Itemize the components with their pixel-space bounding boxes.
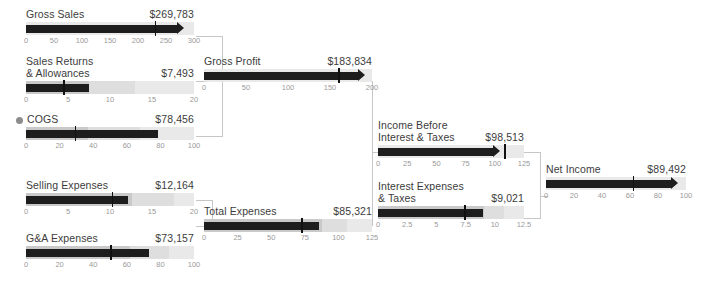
axis: 0 5 10 15 20: [26, 95, 194, 107]
target-marker: [112, 192, 114, 207]
axis-tick: 100: [76, 36, 89, 46]
panel-title-wrap: Total Expenses: [204, 205, 277, 217]
panel-title-line2: & Allowances: [26, 67, 93, 79]
measure-bar: [26, 249, 149, 257]
axis-tick: 0: [24, 207, 28, 217]
panel-title-line1: Income Before: [378, 119, 448, 131]
axis-tick: 0: [24, 141, 28, 151]
panel-title: Net Income: [546, 163, 601, 175]
target-marker: [301, 218, 303, 233]
axis-tick: 100: [188, 141, 201, 151]
panel-value: $78,456: [155, 113, 194, 125]
panel-title: Interest Expenses & Taxes: [378, 180, 464, 204]
bullet-bar[interactable]: [26, 22, 194, 35]
target-marker: [338, 68, 340, 83]
panel-title-wrap: Net Income: [546, 163, 601, 175]
bullet-bar[interactable]: [204, 219, 372, 232]
panel-title: Total Expenses: [204, 205, 277, 217]
axis-tick: 40: [598, 191, 606, 201]
measure-bar: [546, 180, 671, 188]
axis-tick: 100: [282, 83, 295, 93]
bullet-bar[interactable]: [204, 69, 372, 82]
measure-bar: [378, 148, 493, 156]
bullet-bar[interactable]: [378, 145, 524, 158]
target-marker: [633, 176, 635, 191]
bullet-bar[interactable]: [26, 246, 194, 259]
axis-tick: 0: [24, 260, 28, 270]
measure-bar: [26, 84, 89, 92]
axis-tick: 5: [66, 207, 70, 217]
axis-tick: 2.5: [402, 220, 412, 230]
axis-tick: 100: [332, 233, 345, 243]
panel-value: $269,783: [149, 8, 194, 20]
bullet-chart-dashboard: Gross Sales $269,783 0 50 100 150 200 25…: [0, 0, 708, 282]
panel-title: Gross Profit: [204, 55, 261, 67]
axis: 0 5 10 15 20: [26, 207, 194, 219]
target-marker: [504, 144, 506, 159]
axis-tick: 40: [89, 141, 97, 151]
bullet-panel-sales-returns-allowances: Sales Returns & Allowances $7,493 0 5 10…: [26, 55, 194, 107]
axis-tick: 20: [570, 191, 578, 201]
measure-arrow-cap: [671, 177, 678, 189]
panel-header: G&A Expenses $73,157: [26, 232, 194, 244]
panel-title: G&A Expenses: [26, 232, 98, 244]
bullet-bar[interactable]: [26, 127, 194, 140]
axis-tick: 0: [202, 233, 206, 243]
axis-tick: 250: [160, 36, 173, 46]
panel-value: $98,513: [485, 131, 524, 143]
axis: 0 50 100 150 200 250 300: [26, 36, 194, 48]
axis-tick: 60: [626, 191, 634, 201]
axis-tick: 0: [24, 95, 28, 105]
measure-arrow-cap: [493, 145, 500, 157]
axis: 0 25 50 75 100 125: [204, 233, 372, 245]
panel-title-wrap: Selling Expenses: [26, 179, 108, 191]
bullet-bar[interactable]: [546, 177, 686, 190]
panel-header: Gross Profit $183,834: [204, 55, 372, 67]
axis: 0 20 40 60 80 100: [546, 191, 686, 203]
measure-bar: [26, 130, 158, 138]
axis-tick: 15: [148, 207, 156, 217]
axis: 0 2.5 5 7.5 10 12.5: [378, 220, 524, 232]
panel-value: $73,157: [155, 232, 194, 244]
axis-tick: 15: [148, 95, 156, 105]
axis-tick: 12.5: [517, 220, 532, 230]
panel-title: Income Before Interest & Taxes: [378, 119, 455, 143]
axis-tick: 20: [55, 141, 63, 151]
axis-tick: 50: [50, 36, 58, 46]
axis-tick: 150: [324, 83, 337, 93]
axis-tick: 10: [106, 95, 114, 105]
bullet-panel-total-expenses: Total Expenses $85,321 0 25 50 75 100 12…: [204, 205, 372, 245]
bullet-bar[interactable]: [26, 193, 194, 206]
bullet-panel-ga-expenses: G&A Expenses $73,157 0 20 40 60 80 100: [26, 232, 194, 272]
panel-title-wrap: Gross Profit: [204, 55, 261, 67]
axis-tick: 150: [104, 36, 117, 46]
panel-header: Gross Sales $269,783: [26, 8, 194, 20]
bullet-panel-gross-sales: Gross Sales $269,783 0 50 100 150 200 25…: [26, 8, 194, 48]
axis-tick: 60: [123, 141, 131, 151]
axis-tick: 50: [267, 233, 275, 243]
axis-tick: 200: [366, 83, 379, 93]
panel-header: Income Before Interest & Taxes $98,513: [378, 119, 524, 143]
axis-tick: 10: [491, 220, 499, 230]
panel-title-wrap: G&A Expenses: [26, 232, 98, 244]
panel-header: Interest Expenses & Taxes $9,021: [378, 180, 524, 204]
axis-tick: 20: [55, 260, 63, 270]
panel-title: COGS: [27, 113, 58, 125]
axis-tick: 5: [434, 220, 438, 230]
bullet-bar[interactable]: [378, 206, 524, 219]
axis-tick: 125: [518, 159, 531, 169]
panel-title: Gross Sales: [26, 8, 84, 20]
target-marker: [75, 126, 77, 141]
axis-tick: 80: [156, 141, 164, 151]
measure-bar: [204, 72, 358, 80]
panel-value: $7,493: [161, 67, 194, 79]
panel-title-line1: Sales Returns: [26, 55, 93, 67]
bullet-bar[interactable]: [26, 81, 194, 94]
axis-tick: 75: [461, 159, 469, 169]
panel-title-wrap: Gross Sales: [26, 8, 84, 20]
target-marker: [63, 80, 65, 95]
target-marker: [110, 245, 112, 260]
axis-tick: 60: [123, 260, 131, 270]
connector-interest-to-net-income: [524, 196, 540, 218]
measure-arrow-cap: [177, 22, 184, 34]
